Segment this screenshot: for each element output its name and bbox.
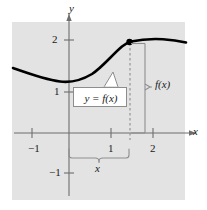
- function-graph-figure: y = f(x) y x 2 1 −1 −1 1 2 f(x) x: [0, 0, 207, 210]
- callout-label: y = f(x): [74, 88, 128, 108]
- y-tick-label-1: 1: [54, 86, 60, 97]
- fx-value-bracket: [131, 44, 152, 134]
- callout-pointer: [104, 72, 118, 88]
- marked-point-dot: [126, 39, 132, 45]
- callout-box: y = f(x): [73, 87, 127, 107]
- x-axis: [14, 130, 196, 135]
- y-tick-label-neg1: −1: [49, 167, 61, 178]
- x-tick-label-1: 1: [108, 143, 114, 154]
- x-tick-label-2: 2: [150, 143, 156, 154]
- x-axis-label: x: [193, 126, 198, 137]
- function-curve: [13, 39, 186, 82]
- x-tick-label-neg1: −1: [28, 143, 40, 154]
- y-axis-label: y: [69, 3, 74, 14]
- fx-bracket-label: f(x): [155, 79, 170, 90]
- x-brace-label: x: [95, 163, 100, 174]
- y-axis: [66, 14, 71, 196]
- y-tick-label-2: 2: [52, 34, 58, 45]
- x-input-brace: [69, 149, 129, 163]
